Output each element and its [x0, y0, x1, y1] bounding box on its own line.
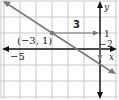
coordinate-plane-figure: (−3, 1) 3 1 − 2 −5 x y: [0, 0, 119, 100]
x-axis-label: x: [109, 52, 114, 62]
y-axis-down-arrow-icon: [97, 92, 103, 99]
point-label: (−3, 1): [17, 35, 52, 46]
x-axis-left-arrow-icon: [2, 46, 9, 52]
x-tick-label-neg5: −5: [10, 51, 25, 62]
y-axis-up-arrow-icon: [97, 1, 103, 8]
rise-label-denominator: 2: [107, 39, 113, 49]
rise-arrow-head-icon: [98, 55, 103, 61]
run-arrow-head-icon: [93, 31, 99, 36]
run-arrow: [52, 31, 99, 36]
y-axis-label: y: [103, 2, 110, 12]
graph-svg: (−3, 1) 3 1 − 2 −5 x y: [0, 0, 119, 100]
rise-label-sign: −: [99, 39, 107, 49]
rise-label-numerator: 1: [104, 29, 110, 39]
run-label: 3: [73, 19, 80, 30]
